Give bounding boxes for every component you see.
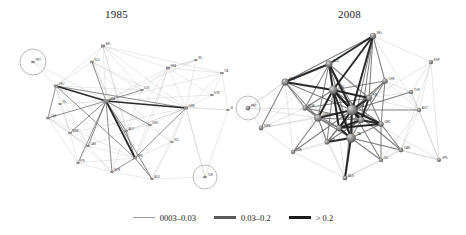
network-edge <box>293 152 345 178</box>
node-label: PRT <box>251 104 257 108</box>
network-edge <box>135 158 152 179</box>
node-label: TUR <box>207 173 213 177</box>
node-label: SWE <box>264 124 271 128</box>
network-node <box>314 114 321 121</box>
network-edge <box>381 110 419 160</box>
network-node <box>437 158 441 162</box>
node-label: GBR <box>189 104 195 108</box>
network-node <box>77 162 80 164</box>
node-label: GRC <box>384 120 391 124</box>
node-label: NOR <box>308 104 315 108</box>
network-figure: 1985 BELNLDFRAITADEUUSAGBRESPCHESWEAUTDN… <box>0 0 466 235</box>
network-node <box>336 125 342 131</box>
network-node <box>429 60 433 64</box>
network-node <box>343 176 347 180</box>
network-node <box>382 78 387 83</box>
network-edge <box>70 133 78 163</box>
network-node <box>409 90 413 94</box>
network-edge <box>373 36 419 110</box>
node-label: DEU <box>59 82 65 86</box>
node-label: FIN <box>80 159 85 163</box>
node-label: IRL <box>198 56 203 60</box>
network-edge <box>419 62 431 110</box>
network-node <box>329 86 337 94</box>
network-node <box>101 45 105 47</box>
node-label: CHE <box>51 114 57 118</box>
network-node <box>282 79 289 86</box>
network-node <box>366 95 372 101</box>
network-node <box>326 61 333 68</box>
legend-label-thin: 0003–0.03 <box>160 213 196 223</box>
node-label: USA <box>358 104 364 108</box>
network-node <box>195 59 198 61</box>
network-edge <box>152 108 186 179</box>
network-node <box>151 178 154 180</box>
network-edge <box>70 133 88 146</box>
node-label: CAN <box>404 146 410 150</box>
network-edge <box>261 128 293 152</box>
network-node <box>378 121 383 126</box>
edge-weight-legend: 0003–0.03 0.03–0.2 > 0.2 <box>0 200 466 235</box>
node-label: NZL <box>330 138 336 142</box>
network-edge <box>411 92 439 160</box>
network-node <box>246 106 250 110</box>
network-node <box>124 130 127 132</box>
network-node <box>141 89 144 91</box>
node-label: NOR <box>114 168 120 172</box>
network-node <box>379 158 383 162</box>
node-label: PRT <box>35 58 41 62</box>
network-edge <box>285 82 333 90</box>
network-node <box>90 61 93 63</box>
node-label: NZL <box>174 138 180 142</box>
node-label: BEL <box>377 31 383 35</box>
node-label: ITA <box>224 69 228 73</box>
node-label: AUT <box>422 106 428 110</box>
network-node <box>303 106 308 111</box>
network-graph-1985: BELNLDFRAITADEUUSAGBRESPCHESWEAUTDNKCANJ… <box>0 0 233 200</box>
network-node <box>203 176 206 178</box>
legend-item-thin: 0003–0.03 <box>133 213 196 223</box>
node-label: ESP <box>214 91 220 95</box>
network-panel-2008: 2008 BELNLDFRADEUUSAGBRITACHEESPAUTSWEDN… <box>233 0 466 200</box>
node-label: DNK <box>152 121 158 125</box>
network-edge <box>186 73 222 108</box>
network-node <box>133 157 137 159</box>
network-node <box>59 103 62 105</box>
network-node <box>417 108 421 112</box>
node-label: TUR <box>414 88 420 92</box>
network-node <box>346 133 355 142</box>
network-edge <box>205 110 228 177</box>
network-edge <box>150 68 168 125</box>
network-node <box>221 72 224 74</box>
network-edge <box>60 104 70 133</box>
node-label: NLD <box>95 58 101 62</box>
node-label: CAN <box>90 142 96 146</box>
network-node <box>291 150 295 154</box>
node-label: ESP <box>434 58 440 62</box>
node-label: GBR <box>322 113 328 117</box>
network-edge <box>56 86 186 108</box>
network-edge <box>385 81 411 92</box>
node-label: CHE <box>388 77 394 81</box>
network-edge <box>88 146 112 172</box>
network-edge <box>152 177 205 179</box>
legend-line-thick-icon <box>289 216 311 220</box>
network-edge <box>135 125 150 158</box>
node-label: JPN <box>138 154 143 158</box>
network-edge <box>373 36 431 62</box>
network-node <box>211 94 214 96</box>
node-label: ISL <box>384 156 389 160</box>
network-node <box>87 145 90 147</box>
network-node <box>46 117 49 119</box>
network-edge <box>401 150 439 160</box>
legend-item-mid: 0.03–0.2 <box>214 213 271 223</box>
network-node <box>184 107 188 109</box>
network-node <box>358 117 364 123</box>
network-graph-2008: BELNLDFRADEUUSAGBRITACHEESPAUTSWEDNKCANJ… <box>233 0 466 200</box>
network-edge <box>285 36 373 82</box>
network-node <box>69 132 72 134</box>
node-label: IRL <box>365 115 370 119</box>
legend-label-mid: 0.03–0.2 <box>241 213 271 223</box>
legend-item-thick: > 0.2 <box>289 213 334 223</box>
node-label: USA <box>109 97 115 101</box>
